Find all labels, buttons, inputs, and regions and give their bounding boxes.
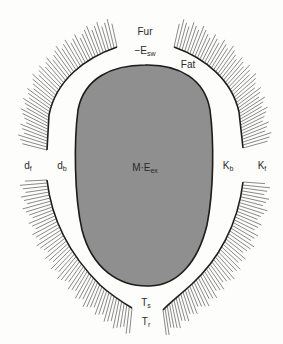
fur-hair <box>71 43 83 65</box>
fur-hair <box>243 141 268 148</box>
fur-hair <box>240 107 262 120</box>
label-fur: Fur <box>138 27 153 37</box>
fur-hair <box>226 239 243 253</box>
fur-hair <box>241 194 269 200</box>
fur-hair <box>216 46 234 72</box>
fur-hair <box>53 246 70 262</box>
fur-hair <box>174 24 179 47</box>
label-skin-temperature: Ts <box>141 298 151 309</box>
fur-hair <box>205 39 218 63</box>
fur-hair <box>75 274 89 299</box>
fur-hair <box>214 49 228 70</box>
fur-hair <box>202 273 216 298</box>
fur-hair <box>239 203 267 211</box>
fur-hair <box>26 204 52 212</box>
fur-hair <box>233 74 256 95</box>
fur-hair <box>241 116 265 128</box>
fur-hair <box>112 24 117 47</box>
fur-hair <box>23 186 48 189</box>
fur-hair <box>63 44 78 68</box>
fur-hair <box>94 287 102 308</box>
fur-hair <box>240 200 263 206</box>
fur-hair <box>65 262 80 282</box>
label-fat: Fat <box>181 60 195 70</box>
fur-hair <box>103 293 110 315</box>
fur-hair <box>102 27 109 51</box>
fur-hair <box>230 70 250 90</box>
fur-hair <box>237 87 261 105</box>
fur-hair <box>53 60 68 79</box>
fur-hair <box>241 122 268 134</box>
fur-hair <box>37 230 61 246</box>
fur-hair <box>192 26 204 55</box>
fur-hair <box>47 58 66 81</box>
fur-hair <box>23 201 51 209</box>
fur-hair <box>243 185 270 188</box>
fur-hair <box>79 276 91 299</box>
fur-hair <box>242 191 265 195</box>
fur-hair <box>29 207 52 215</box>
fur-hair <box>240 102 264 117</box>
fur-hair <box>59 254 75 272</box>
fur-hair <box>210 264 223 282</box>
fur-hair <box>20 183 48 185</box>
fur-hair <box>73 39 86 63</box>
fur-hair <box>243 182 265 184</box>
fur-hair <box>24 133 47 141</box>
fur-hair <box>183 292 190 314</box>
fur-hair <box>227 67 244 85</box>
label-body-conductivity: Kb <box>223 161 234 172</box>
fur-hair <box>220 55 236 76</box>
fur-hair <box>45 67 62 85</box>
fur-hair <box>232 225 255 238</box>
fur-hair <box>25 180 47 181</box>
label-sweat-evaporation: −Esw <box>134 46 155 57</box>
fur-hair <box>219 252 237 271</box>
fur-hair <box>107 19 114 48</box>
fur-hair <box>238 208 261 216</box>
fur-hair <box>172 302 178 328</box>
fur-hair <box>177 19 184 48</box>
fur-hair <box>26 189 49 192</box>
fur-hair <box>174 300 181 328</box>
fur-hair <box>55 251 73 270</box>
fur-hair <box>83 280 95 306</box>
fur-hair <box>23 114 49 127</box>
fur-hair <box>34 89 53 104</box>
fur-hair <box>217 255 233 273</box>
fur-hair <box>40 233 62 248</box>
fur-hair <box>104 294 112 321</box>
fur-hair <box>214 259 231 280</box>
fur-hair <box>45 241 66 259</box>
label-radiant-temperature: Tr <box>142 317 150 328</box>
fur-hair <box>222 247 239 263</box>
fur-hair <box>230 231 254 247</box>
label-metabolism: M·Eex <box>132 163 158 174</box>
fur-hair <box>229 65 250 87</box>
fur-hair <box>124 305 127 327</box>
fur-hair <box>211 44 226 68</box>
fur-hair <box>44 236 64 251</box>
fur-hair <box>239 97 265 114</box>
fur-hair <box>54 55 70 76</box>
fur-hair <box>39 75 58 93</box>
core-body <box>75 65 212 286</box>
fur-hair <box>236 88 255 103</box>
fur-hair <box>206 269 220 290</box>
label-body-thickness: db <box>57 161 66 172</box>
fur-hair <box>207 43 219 65</box>
fur-hair <box>29 98 50 112</box>
fur-hair <box>239 97 259 111</box>
fur-hair <box>68 266 83 289</box>
fur-hair <box>49 244 68 261</box>
fur-hair <box>99 291 107 315</box>
fur-hair <box>182 27 189 51</box>
fur-hair <box>39 66 60 88</box>
fur-hair <box>202 35 215 62</box>
fur-hair <box>224 57 243 80</box>
fur-hair <box>32 222 57 235</box>
fur-hair <box>179 23 186 49</box>
fur-hair <box>204 271 216 291</box>
fur-hair <box>75 35 88 62</box>
label-fur-thickness: df <box>24 161 32 172</box>
